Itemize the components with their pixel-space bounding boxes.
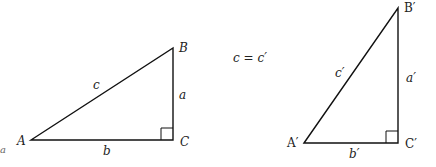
- side-label-b-prime: b′: [349, 148, 359, 160]
- vertex-label-b-prime: B′: [404, 2, 416, 14]
- vertex-label-c: C: [180, 136, 189, 148]
- right-angle-mark-c-prime: [386, 131, 398, 143]
- diagram-canvas: A B C a b c c = c′ A′ B′ C′ a′ b′ c′ a: [0, 0, 436, 167]
- triangles-drawing: [0, 0, 436, 167]
- vertex-label-b: B: [179, 42, 188, 54]
- hypotenuse-equality-label: c = c′: [233, 52, 267, 64]
- triangle-prime-outline: [304, 8, 398, 143]
- triangle-abc-outline: [31, 48, 173, 140]
- vertex-label-a-prime: A′: [287, 137, 298, 149]
- triangle-a-prime-b-prime-c-prime: [304, 8, 398, 143]
- side-label-a: a: [179, 89, 186, 101]
- vertex-label-a: A: [17, 135, 26, 147]
- right-angle-mark-c: [161, 128, 173, 140]
- vertex-label-c-prime: C′: [405, 138, 417, 150]
- side-label-c-prime: c′: [335, 67, 344, 79]
- side-label-c: c: [93, 79, 100, 91]
- side-label-b: b: [103, 145, 111, 157]
- side-label-a-prime: a′: [406, 72, 416, 84]
- triangle-abc: [31, 48, 173, 140]
- edge-fragment-mark: a: [0, 145, 6, 155]
